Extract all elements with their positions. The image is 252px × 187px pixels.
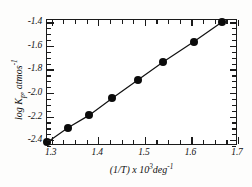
x-tick-top-minor: [122, 20, 123, 24]
y-tick-right-minor: [232, 40, 236, 41]
y-tick-left-minor: [47, 87, 51, 88]
y-tick-left-minor: [47, 75, 51, 76]
y-tick-right-minor: [232, 122, 236, 123]
y-tick-left-minor: [47, 28, 51, 29]
trend-line: [47, 20, 238, 146]
x-tick-bottom-minor: [168, 140, 169, 144]
x-tick-bottom-minor: [87, 140, 88, 144]
y-tick-right-major: [230, 46, 236, 47]
y-tick-right-minor: [232, 105, 236, 106]
y-tick-left-major: [47, 22, 54, 23]
x-tick-top-major: [191, 20, 192, 26]
x-tick-bottom-minor: [122, 140, 123, 144]
y-tick-right-minor: [232, 58, 236, 59]
x-tick-top-minor: [133, 20, 134, 24]
y-tick-right-major: [230, 93, 236, 94]
y-tick-right-minor: [232, 81, 236, 82]
x-tick-top-minor: [168, 20, 169, 24]
x-tick-bottom-minor: [203, 140, 204, 144]
y-tick-right-minor: [232, 34, 236, 35]
x-tick-label: 1.4: [92, 147, 103, 157]
x-tick-bottom-minor: [110, 140, 111, 144]
x-tick-top-minor: [215, 20, 216, 24]
y-tick-right-major: [230, 22, 236, 23]
y-tick-left-minor: [47, 40, 51, 41]
y-tick-right-minor: [232, 111, 236, 112]
y-axis-title-exponent-neg1: -1: [11, 59, 19, 65]
x-tick-label: 1.6: [185, 147, 196, 157]
y-tick-right-major: [230, 140, 236, 141]
plot-frame: [46, 19, 237, 145]
y-tick-left-major: [47, 140, 54, 141]
y-tick-left-minor: [47, 111, 51, 112]
x-tick-bottom-major: [191, 137, 192, 144]
y-tick-right-minor: [232, 64, 236, 65]
y-tick-left-minor: [47, 134, 51, 135]
y-tick-right-major: [230, 69, 236, 70]
x-tick-bottom-minor: [75, 140, 76, 144]
data-point: [190, 38, 198, 46]
y-tick-right-minor: [232, 134, 236, 135]
y-tick-left-minor: [47, 81, 51, 82]
x-axis-title-lead: (1/T) x 10: [110, 164, 149, 175]
x-tick-label: 1.7: [231, 147, 242, 157]
y-axis-title-lead: log K: [13, 98, 24, 120]
x-tick-top-minor: [75, 20, 76, 24]
y-tick-left-major: [47, 69, 54, 70]
x-tick-top-minor: [110, 20, 111, 24]
x-tick-bottom-minor: [156, 140, 157, 144]
x-tick-top-major: [98, 20, 99, 26]
y-tick-label: -1.4: [14, 16, 42, 26]
x-tick-top-minor: [226, 20, 227, 24]
x-tick-top-major: [238, 20, 239, 26]
y-tick-right-minor: [232, 128, 236, 129]
x-tick-top-minor: [180, 20, 181, 24]
x-tick-bottom-major: [145, 137, 146, 144]
x-tick-bottom-major: [238, 137, 239, 144]
y-axis-title-mid: , atmos: [13, 65, 24, 94]
figure-canvas: 1.31.41.51.61.7 -1.4-1.6-1.8-2.0-2.2-2.4…: [0, 0, 252, 187]
x-tick-bottom-major: [98, 137, 99, 144]
x-tick-bottom-minor: [226, 140, 227, 144]
y-tick-left-minor: [47, 58, 51, 59]
x-axis-title-mid: deg: [153, 164, 167, 175]
x-tick-top-minor: [156, 20, 157, 24]
x-axis-title: (1/T) x 103deg-1: [46, 163, 237, 175]
y-tick-left-minor: [47, 64, 51, 65]
x-tick-bottom-minor: [63, 140, 64, 144]
x-tick-bottom-minor: [215, 140, 216, 144]
y-tick-left-minor: [47, 105, 51, 106]
y-tick-left-major: [47, 46, 54, 47]
y-tick-right-major: [230, 117, 236, 118]
y-tick-left-major: [47, 93, 54, 94]
y-tick-left-minor: [47, 99, 51, 100]
x-tick-label: 1.3: [45, 147, 56, 157]
x-axis-title-exponent-neg1: -1: [167, 163, 173, 171]
y-tick-left-major: [47, 117, 54, 118]
y-tick-left-minor: [47, 122, 51, 123]
y-axis-title: log Kp, atmos-1: [11, 30, 26, 150]
x-tick-label: 1.5: [138, 147, 149, 157]
x-tick-bottom-minor: [133, 140, 134, 144]
x-tick-bottom-minor: [180, 140, 181, 144]
y-tick-right-minor: [232, 28, 236, 29]
y-tick-left-minor: [47, 128, 51, 129]
y-tick-right-minor: [232, 52, 236, 53]
data-point: [134, 76, 142, 84]
data-layer: [47, 20, 236, 144]
x-tick-top-minor: [203, 20, 204, 24]
data-point: [64, 124, 72, 132]
y-tick-left-minor: [47, 34, 51, 35]
y-tick-right-minor: [232, 87, 236, 88]
y-tick-right-minor: [232, 99, 236, 100]
x-tick-top-minor: [63, 20, 64, 24]
y-tick-right-minor: [232, 75, 236, 76]
y-axis-title-subscript-p: p: [18, 94, 27, 98]
y-tick-left-minor: [47, 52, 51, 53]
x-tick-top-major: [145, 20, 146, 26]
x-tick-top-minor: [87, 20, 88, 24]
